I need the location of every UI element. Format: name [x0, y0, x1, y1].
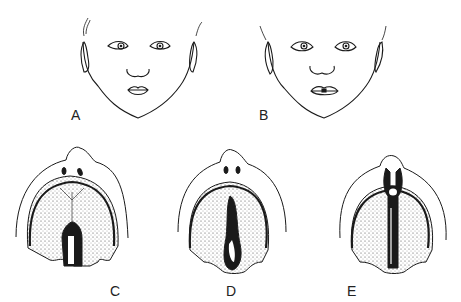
panel-label-d: D: [226, 284, 236, 298]
figure-canvas: [0, 0, 461, 302]
left-ear: [265, 42, 273, 74]
mouth: [128, 87, 148, 95]
panel-label-a: A: [71, 108, 80, 122]
face-a: [81, 18, 202, 118]
nose: [310, 66, 334, 74]
face-b: [260, 26, 386, 118]
palate-c: [16, 147, 128, 266]
palate-e: [340, 155, 446, 273]
panel-label-b: B: [259, 108, 268, 122]
right-ear: [375, 42, 383, 72]
palate-d: [178, 150, 286, 274]
panel-label-c: C: [110, 284, 120, 298]
panel-label-e: E: [347, 284, 356, 298]
nose: [127, 69, 149, 77]
